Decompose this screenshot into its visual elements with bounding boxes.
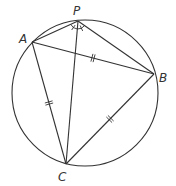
segment-AB [32,42,154,74]
label-P: P [73,4,81,18]
angle-tick [72,25,75,30]
geometry-diagram: P A B C [0,0,176,186]
segment-PC [66,21,78,164]
label-A: A [18,32,27,46]
segments [32,21,154,164]
segment-PA [32,21,78,42]
segment-AC [32,42,66,164]
label-B: B [159,71,167,85]
segment-BC [66,74,154,164]
tick-marks [45,54,114,123]
label-C: C [58,170,67,184]
